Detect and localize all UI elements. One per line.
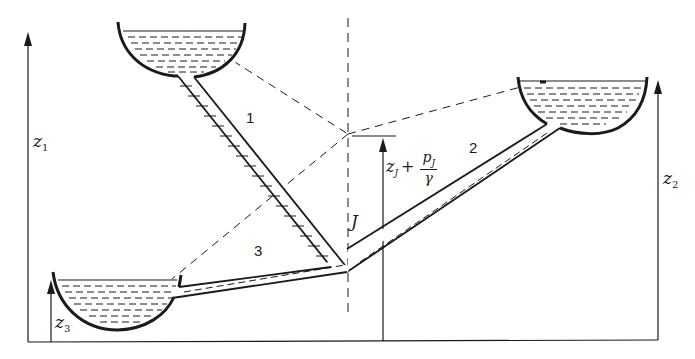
junction-z-subscript: J xyxy=(394,168,398,178)
pipe-1-label: 1 xyxy=(246,110,254,125)
z2-subscript: 2 xyxy=(672,179,678,190)
z3-elevation-arrow xyxy=(47,280,55,342)
pipe-3 xyxy=(172,262,350,298)
reservoir-1 xyxy=(118,22,246,77)
diagram-canvas xyxy=(0,0,695,359)
fraction-denominator: γ xyxy=(420,170,437,185)
plus-sign: + xyxy=(401,157,414,176)
z2-symbol: z xyxy=(663,168,672,188)
reservoir-3 xyxy=(53,272,181,330)
reservoir-2 xyxy=(518,77,647,134)
z1-label: z1 xyxy=(33,133,48,153)
z1-subscript: 1 xyxy=(42,142,48,153)
pipe-3-label: 3 xyxy=(254,243,262,258)
junction-head-label: zJ+pJγ xyxy=(386,150,437,185)
junction-label: J xyxy=(351,213,358,230)
z3-subscript: 3 xyxy=(64,323,70,334)
z3-symbol: z xyxy=(55,312,64,332)
pipe-2-label: 2 xyxy=(469,140,477,155)
pipe-1 xyxy=(178,76,350,269)
z2-label: z2 xyxy=(663,170,678,190)
datum-frame xyxy=(28,340,658,342)
fraction-numerator: pJ xyxy=(420,150,437,170)
z1-elevation-arrow xyxy=(24,32,32,342)
pipe-2 xyxy=(347,124,560,272)
z2-elevation-arrow xyxy=(654,80,662,340)
pressure-head-fraction: pJγ xyxy=(420,150,437,185)
z1-symbol: z xyxy=(33,131,42,151)
z3-label: z3 xyxy=(55,314,70,334)
pressure-subscript: J xyxy=(431,158,435,168)
